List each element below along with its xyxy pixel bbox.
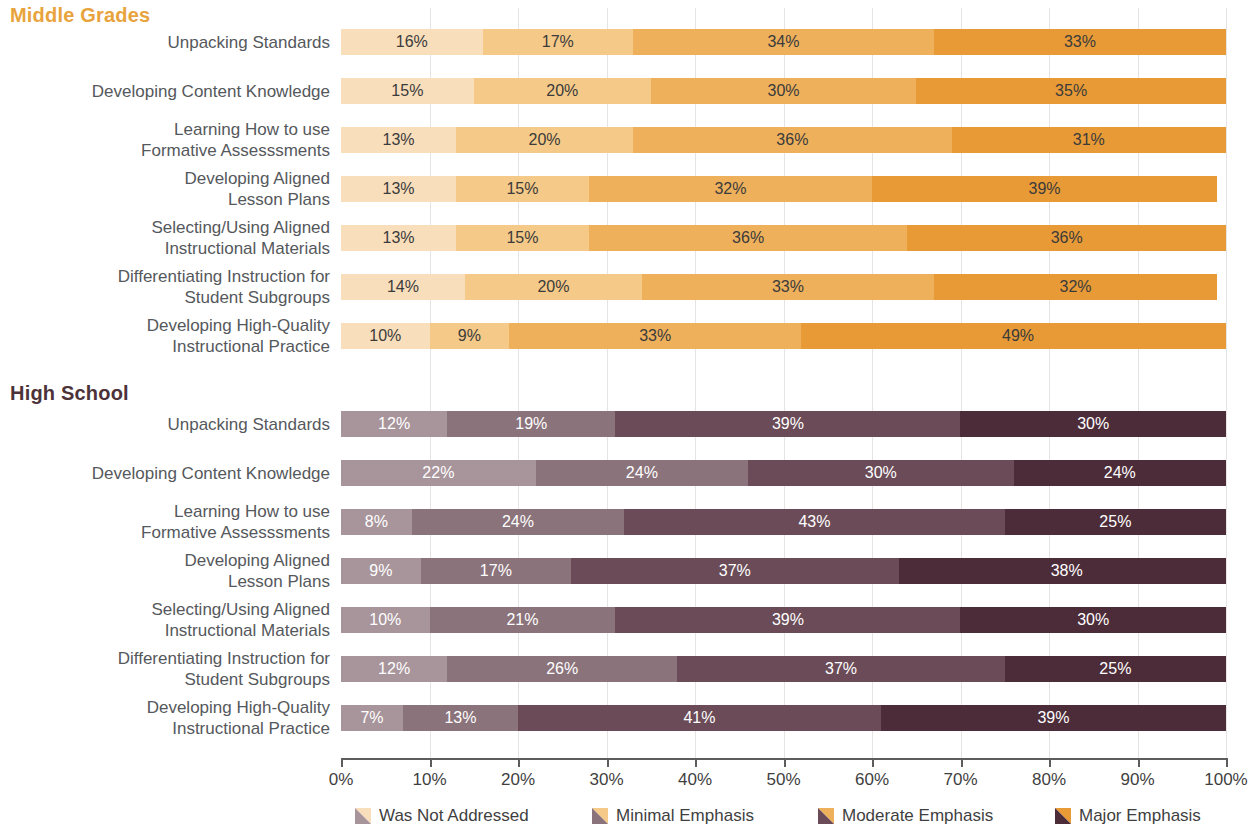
bar-segment[interactable]: 33% — [509, 323, 801, 349]
bar-segment[interactable]: 33% — [642, 274, 934, 300]
bar-segment[interactable]: 16% — [341, 29, 483, 55]
bar-segment[interactable]: 43% — [624, 509, 1005, 535]
stacked-bar[interactable]: 9%17%37%38% — [341, 558, 1226, 584]
bar-segment[interactable]: 24% — [412, 509, 624, 535]
stacked-bar[interactable]: 13%15%32%39% — [341, 176, 1226, 202]
stacked-bar[interactable]: 13%20%36%31% — [341, 127, 1226, 153]
bar-segment[interactable]: 30% — [960, 607, 1226, 633]
bar-segment[interactable]: 26% — [447, 656, 677, 682]
bar-segment[interactable]: 37% — [677, 656, 1004, 682]
bar-segment[interactable]: 25% — [1005, 656, 1226, 682]
legend-item[interactable]: Was Not Addressed — [355, 806, 529, 826]
stacked-bar[interactable]: 10%21%39%30% — [341, 607, 1226, 633]
row-label: Learning How to use Formative Assesssmen… — [0, 501, 330, 543]
stacked-bar[interactable]: 7%13%41%39% — [341, 705, 1226, 731]
stacked-bar[interactable]: 12%19%39%30% — [341, 411, 1226, 437]
gridline — [784, 8, 785, 758]
bar-segment[interactable]: 15% — [341, 78, 474, 104]
bar-segment[interactable]: 33% — [934, 29, 1226, 55]
gridline — [1049, 8, 1050, 758]
bar-segment[interactable]: 30% — [960, 411, 1226, 437]
stacked-bar[interactable]: 14%20%33%32% — [341, 274, 1226, 300]
bar-segment[interactable]: 8% — [341, 509, 412, 535]
bar-segment[interactable]: 7% — [341, 705, 403, 731]
bar-segment[interactable]: 31% — [952, 127, 1226, 153]
axis-tick-label: 10% — [412, 770, 446, 790]
axis-tick — [1138, 758, 1140, 767]
legend-swatch-icon — [818, 808, 834, 824]
section-header-high-school: High School — [10, 382, 129, 405]
row-label: Unpacking Standards — [0, 414, 330, 435]
bar-segment[interactable]: 17% — [483, 29, 633, 55]
bar-segment[interactable]: 37% — [571, 558, 898, 584]
bar-segment[interactable]: 20% — [456, 127, 633, 153]
bar-segment[interactable]: 24% — [536, 460, 748, 486]
bar-segment[interactable]: 13% — [341, 127, 456, 153]
bar-segment[interactable]: 35% — [916, 78, 1226, 104]
stacked-bar[interactable]: 16%17%34%33% — [341, 29, 1226, 55]
bar-segment[interactable]: 9% — [341, 558, 421, 584]
bar-segment[interactable]: 10% — [341, 607, 430, 633]
bar-segment[interactable]: 15% — [456, 176, 589, 202]
stacked-bar[interactable]: 8%24%43%25% — [341, 509, 1226, 535]
bar-segment[interactable]: 20% — [474, 78, 651, 104]
axis-tick — [872, 758, 874, 767]
bar-segment[interactable]: 39% — [615, 607, 960, 633]
stacked-bar[interactable]: 10%9%33%49% — [341, 323, 1226, 349]
bar-segment[interactable]: 39% — [872, 176, 1217, 202]
bar-segment[interactable]: 38% — [899, 558, 1226, 584]
row-label: Unpacking Standards — [0, 32, 330, 53]
bar-segment[interactable]: 34% — [633, 29, 934, 55]
bar-segment[interactable]: 12% — [341, 411, 447, 437]
axis-tick — [1049, 758, 1051, 767]
axis-tick-label: 0% — [329, 770, 354, 790]
legend-swatch-icon — [355, 808, 371, 824]
stacked-bar[interactable]: 15%20%30%35% — [341, 78, 1226, 104]
bar-segment[interactable]: 12% — [341, 656, 447, 682]
bar-segment[interactable]: 36% — [589, 225, 908, 251]
bar-segment[interactable]: 10% — [341, 323, 430, 349]
bar-segment[interactable]: 21% — [430, 607, 616, 633]
bar-segment[interactable]: 36% — [633, 127, 952, 153]
bar-segment[interactable]: 20% — [465, 274, 642, 300]
legend-item[interactable]: Major Emphasis — [1055, 806, 1201, 826]
axis-tick — [518, 758, 520, 767]
axis-tick-label: 90% — [1120, 770, 1154, 790]
bar-segment[interactable]: 19% — [447, 411, 615, 437]
row-label: Developing Content Knowledge — [0, 81, 330, 102]
axis-tick-label: 80% — [1032, 770, 1066, 790]
bar-segment[interactable]: 25% — [1005, 509, 1226, 535]
stacked-bar[interactable]: 13%15%36%36% — [341, 225, 1226, 251]
bar-segment[interactable]: 24% — [1014, 460, 1226, 486]
bar-segment[interactable]: 22% — [341, 460, 536, 486]
row-label: Developing Aligned Lesson Plans — [0, 168, 330, 210]
bar-segment[interactable]: 30% — [651, 78, 917, 104]
row-label: Learning How to use Formative Assesssmen… — [0, 119, 330, 161]
bar-segment[interactable]: 15% — [456, 225, 589, 251]
bar-segment[interactable]: 39% — [881, 705, 1226, 731]
stacked-bar[interactable]: 22%24%30%24% — [341, 460, 1226, 486]
bar-segment[interactable]: 41% — [518, 705, 881, 731]
bar-segment[interactable]: 14% — [341, 274, 465, 300]
bar-segment[interactable]: 36% — [907, 225, 1226, 251]
gridline — [430, 8, 431, 758]
gridline — [518, 8, 519, 758]
row-label: Developing Aligned Lesson Plans — [0, 550, 330, 592]
bar-segment[interactable]: 13% — [341, 225, 456, 251]
bar-segment[interactable]: 9% — [430, 323, 510, 349]
bar-segment[interactable]: 13% — [341, 176, 456, 202]
gridline — [961, 8, 962, 758]
axis-tick — [607, 758, 609, 767]
legend-item[interactable]: Moderate Emphasis — [818, 806, 993, 826]
legend-item[interactable]: Minimal Emphasis — [592, 806, 754, 826]
bar-segment[interactable]: 32% — [934, 274, 1217, 300]
bar-segment[interactable]: 13% — [403, 705, 518, 731]
bar-segment[interactable]: 30% — [748, 460, 1014, 486]
bar-segment[interactable]: 49% — [801, 323, 1226, 349]
bar-segment[interactable]: 32% — [589, 176, 872, 202]
bar-segment[interactable]: 17% — [421, 558, 571, 584]
stacked-bar[interactable]: 12%26%37%25% — [341, 656, 1226, 682]
bar-segment[interactable]: 39% — [615, 411, 960, 437]
row-label: Differentiating Instruction for Student … — [0, 266, 330, 308]
chart-legend: Was Not AddressedMinimal EmphasisModerat… — [0, 806, 1251, 830]
